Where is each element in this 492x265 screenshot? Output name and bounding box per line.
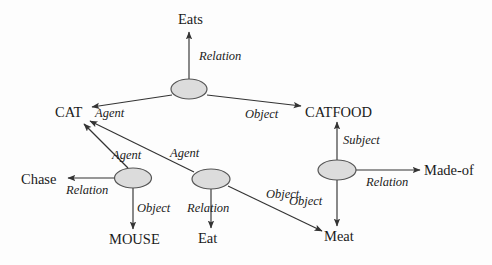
edge-label-madeof-object: Object <box>289 195 322 208</box>
edge-label-eats-relation: Relation <box>199 50 241 63</box>
relation-node-eat[interactable] <box>192 169 230 189</box>
edge-label-eats-agent: Agent <box>95 107 124 120</box>
concept-label-eats: Eats <box>178 12 203 27</box>
concept-label-meat: Meat <box>324 229 354 244</box>
concept-label-catfood: CATFOOD <box>305 105 372 120</box>
relation-node-chase[interactable] <box>115 168 152 188</box>
edge-label-eats-object: Object <box>245 108 278 121</box>
edge-label-chase-agent: Agent <box>112 149 141 162</box>
relation-node-madeof[interactable] <box>318 160 356 180</box>
concept-label-chase: Chase <box>21 172 56 187</box>
concept-label-mouse: MOUSE <box>109 232 160 247</box>
edge-line-eats-object <box>207 95 301 106</box>
concept-label-eat: Eat <box>198 231 217 246</box>
edge-label-eat-relation: Relation <box>187 202 229 215</box>
diagram-canvas: Eats CAT CATFOOD Chase Made-of MOUSE Eat… <box>0 0 492 265</box>
edge-label-madeof-relation: Relation <box>366 176 408 189</box>
diagram-graphics <box>0 0 492 265</box>
concept-label-cat: CAT <box>55 105 82 120</box>
edge-label-eat-agent: Agent <box>170 147 199 160</box>
edge-label-chase-object: Object <box>137 202 170 215</box>
relation-node-eats[interactable] <box>171 79 207 99</box>
concept-label-made-of: Made-of <box>424 163 474 178</box>
edge-label-madeof-subject: Subject <box>343 134 380 147</box>
edge-label-chase-relation: Relation <box>66 184 108 197</box>
